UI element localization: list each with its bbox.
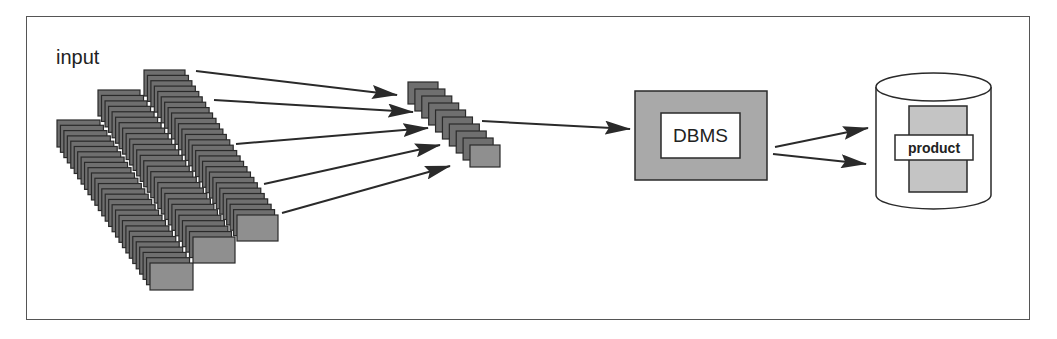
arrow-3 xyxy=(236,128,428,144)
intermediate-stack xyxy=(408,82,500,167)
arrow-2 xyxy=(214,100,413,112)
arrow-5 xyxy=(282,166,450,213)
arrow-to-db-2 xyxy=(773,154,866,164)
arrow-4 xyxy=(264,145,440,184)
arrow-1 xyxy=(196,71,397,95)
dbms-label: DBMS xyxy=(661,113,740,158)
input-label: input xyxy=(56,46,99,69)
diagram-canvas xyxy=(0,0,1057,339)
arrow-to-db-1 xyxy=(775,128,868,147)
product-label: product xyxy=(895,135,973,160)
arrow-to-dbms xyxy=(482,121,630,129)
